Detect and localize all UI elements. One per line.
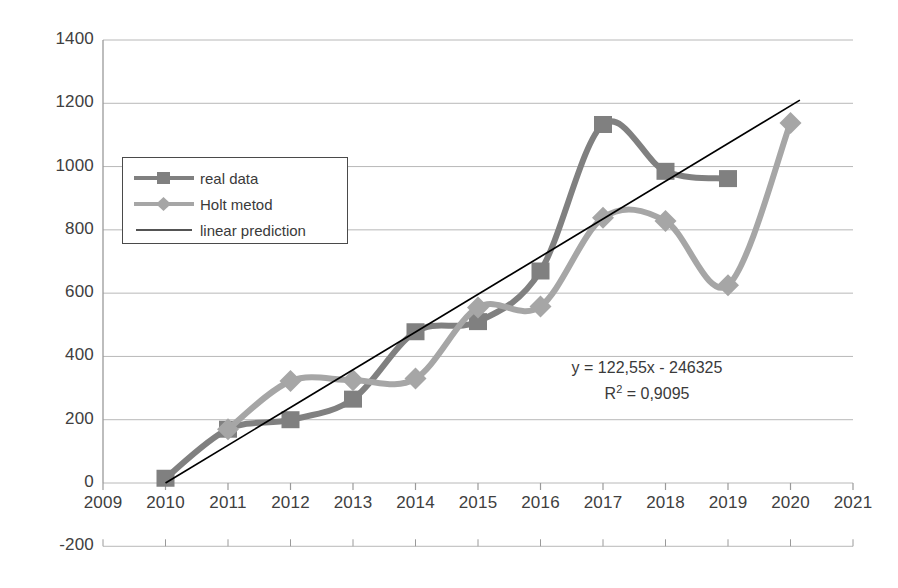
legend-label-holt-metod: Holt metod	[200, 196, 273, 213]
x-axis-tick-label: 2009	[72, 493, 134, 513]
x-axis-tick-label: 2018	[635, 493, 697, 513]
y-axis-tick-label: 1200	[10, 92, 94, 112]
r-squared-prefix: R	[605, 385, 617, 402]
legend-label-real-data: real data	[200, 170, 258, 187]
x-axis-tick-label: 2011	[197, 493, 259, 513]
y-axis-tick-label: 1400	[10, 29, 94, 49]
x-axis-tick-label: 2021	[822, 493, 884, 513]
y-axis-tick-label: 0	[10, 472, 94, 492]
r-squared-line: R2 = 0,9095	[527, 381, 767, 407]
legend-label-linear-prediction: linear prediction	[200, 222, 306, 239]
gridlines	[103, 40, 853, 546]
diamond-marker-line-icon	[133, 195, 195, 213]
x-axis-tick-label: 2013	[322, 493, 384, 513]
equation-line: y = 122,55x - 246325	[527, 356, 767, 381]
legend-item-linear-prediction[interactable]: linear prediction	[133, 217, 347, 243]
chart-legend[interactable]: real data Holt metod linear prediction	[122, 157, 348, 244]
y-axis-tick-label: 1000	[10, 156, 94, 176]
y-axis-tick-label: 800	[10, 219, 94, 239]
y-axis-tick-label: 200	[10, 409, 94, 429]
y-axis-tick-label: 400	[10, 345, 94, 365]
x-axis-tick-label: 2017	[572, 493, 634, 513]
x-axis-tick-label: 2010	[135, 493, 197, 513]
legend-item-real-data[interactable]: real data	[133, 165, 347, 191]
chart-container: 1400120010008006004002000-200 2009201020…	[0, 0, 898, 588]
x-axis-tick-label: 2014	[385, 493, 447, 513]
y-axis-tick-label: 600	[10, 282, 94, 302]
y-axis-tick-label: -200	[10, 535, 94, 555]
x-axis-tick-label: 2015	[447, 493, 509, 513]
x-axis-tick-label: 2019	[697, 493, 759, 513]
legend-item-holt-metod[interactable]: Holt metod	[133, 191, 347, 217]
plain-line-icon	[133, 221, 195, 239]
square-marker-line-icon	[133, 169, 195, 187]
trendline-equation-annotation: y = 122,55x - 246325 R2 = 0,9095	[527, 356, 767, 407]
x-axis-tick-label: 2012	[260, 493, 322, 513]
x-axis-tick-label: 2016	[510, 493, 572, 513]
r-squared-value: = 0,9095	[622, 385, 689, 402]
x-axis-tick-label: 2020	[760, 493, 822, 513]
